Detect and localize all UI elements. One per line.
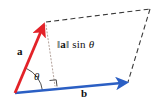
norm-bar-right: ‖: [66, 38, 69, 50]
label-vector-b: b: [81, 88, 87, 99]
right-angle-marker: [50, 80, 58, 87]
sin-angle-theta: θ: [89, 38, 95, 50]
dashed-edge-right: [128, 9, 150, 82]
vector-b-line: [15, 83, 124, 93]
label-vector-a: a: [17, 46, 23, 57]
vector-b-arrow: [15, 83, 124, 93]
sin-function: sin: [72, 38, 85, 50]
vector-a-arrow: [15, 28, 43, 94]
vector-a-line: [15, 28, 43, 94]
diagram-canvas: a b θ ‖a‖ sin θ: [0, 0, 158, 108]
label-height-expression: ‖a‖ sin θ: [57, 39, 94, 50]
vector-diagram-svg: [0, 0, 158, 108]
height-dotted-line: [46, 25, 55, 86]
right-angle-square: [50, 80, 58, 87]
dashed-edge-top: [46, 9, 150, 22]
height-dotted-segment: [46, 25, 55, 86]
label-angle-theta: θ: [34, 71, 39, 82]
